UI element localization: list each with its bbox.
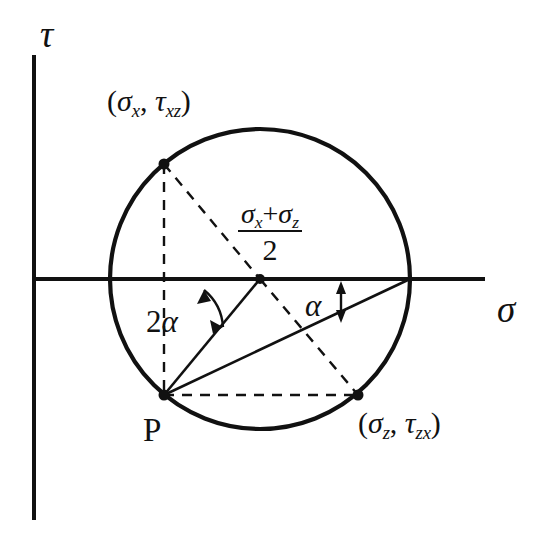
fraction-sigma-z: σ <box>278 198 292 229</box>
sigma-axis-label: σ <box>497 291 515 328</box>
tau-xz-symbol: τ <box>155 84 166 117</box>
point-sigma-x-tau-xz-dot <box>159 159 170 170</box>
paren-close-x: ) <box>181 84 191 117</box>
comma-z: , <box>390 406 405 439</box>
sigma-z-symbol: σ <box>368 406 383 439</box>
fraction-plus-operator: + <box>263 198 279 229</box>
sigma-x-symbol: σ <box>117 84 132 117</box>
circle-center-dot <box>255 274 265 284</box>
two-alpha-arrow-head-upper <box>197 290 211 304</box>
tau-axis-label: τ <box>40 16 53 53</box>
fraction-sigma-x: σ <box>241 198 255 229</box>
mohr-circle-figure: τ σ (σx, τxz) (σz, τzx) P σx+σz 2 2α α <box>0 0 537 548</box>
fraction-sigma-x-sub: x <box>255 213 263 232</box>
two-alpha-number: 2 <box>146 304 162 339</box>
point-p-dot <box>159 390 170 401</box>
paren-open-x: ( <box>107 84 117 117</box>
alpha-symbol: α <box>305 288 321 323</box>
two-alpha-arc-group <box>197 290 223 334</box>
mohr-circle-canvas <box>0 0 537 548</box>
point-sigma-x-tau-xz-label: (σx, τxz) <box>107 86 191 116</box>
fraction-sigma-z-sub: z <box>292 213 299 232</box>
angle-two-alpha-label: 2α <box>146 306 178 337</box>
point-sigma-z-tau-zx-label: (σz, τzx) <box>358 408 441 438</box>
point-p-label: P <box>143 414 161 447</box>
fraction-numerator: σx+σz <box>238 199 302 232</box>
point-sigma-z-tau-zx-dot <box>353 390 364 401</box>
angle-alpha-label: α <box>305 290 321 321</box>
tau-zx-symbol: τ <box>405 406 416 439</box>
paren-open-z: ( <box>358 406 368 439</box>
alpha-arrow-head-up <box>336 281 346 294</box>
center-stress-fraction-label: σx+σz 2 <box>238 199 302 266</box>
fraction-denominator: 2 <box>238 232 302 266</box>
alpha-arrow-group <box>336 281 346 323</box>
two-alpha-symbol: α <box>162 304 178 339</box>
paren-close-z: ) <box>431 406 441 439</box>
tau-zx-subscript: zx <box>416 422 431 443</box>
tau-xz-subscript: xz <box>166 100 181 121</box>
comma-x: , <box>140 84 155 117</box>
sigma-x-subscript: x <box>132 100 140 121</box>
sigma-z-subscript: z <box>383 422 390 443</box>
alpha-arrow-head-down <box>336 310 346 323</box>
